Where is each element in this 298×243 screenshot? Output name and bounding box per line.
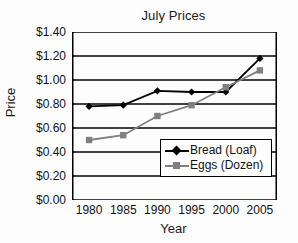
y-tick-label: $0.60 xyxy=(10,122,66,134)
y-tick-label: $0.40 xyxy=(10,146,66,158)
x-tick-label: 2005 xyxy=(240,203,280,217)
y-tick-label: $0.00 xyxy=(10,194,66,206)
data-point-eggs-2005[interactable] xyxy=(257,67,263,73)
y-tick-label: $1.00 xyxy=(10,74,66,86)
chart-title: July Prices xyxy=(70,8,277,23)
data-point-eggs-1985[interactable] xyxy=(120,132,126,138)
y-tick-label: $1.20 xyxy=(10,50,66,62)
data-point-eggs-1990[interactable] xyxy=(154,113,160,119)
data-point-eggs-1995[interactable] xyxy=(188,102,194,108)
data-point-bread-1985[interactable] xyxy=(120,102,127,109)
data-point-bread-1995[interactable] xyxy=(188,88,195,95)
x-axis-label: Year xyxy=(70,221,277,236)
y-tick-label: $0.20 xyxy=(10,170,66,182)
y-tick-label: $0.80 xyxy=(10,98,66,110)
data-point-bread-1990[interactable] xyxy=(154,87,161,94)
legend-label-bread: Bread (Loaf) xyxy=(190,144,257,157)
chart-container: July Prices Price $1.40$1.20$1.00$0.80$0… xyxy=(0,0,298,243)
legend-marker-square-icon xyxy=(164,159,190,172)
y-tick-label: $1.40 xyxy=(10,26,66,38)
data-point-eggs-1980[interactable] xyxy=(86,137,92,143)
chart-legend: Bread (Loaf) Eggs (Dozen) xyxy=(160,139,272,177)
legend-item-bread[interactable]: Bread (Loaf) xyxy=(164,143,267,158)
legend-label-eggs: Eggs (Dozen) xyxy=(190,159,263,172)
data-point-eggs-2000[interactable] xyxy=(223,84,229,90)
legend-item-eggs[interactable]: Eggs (Dozen) xyxy=(164,158,267,173)
legend-marker-diamond-icon xyxy=(164,144,190,157)
